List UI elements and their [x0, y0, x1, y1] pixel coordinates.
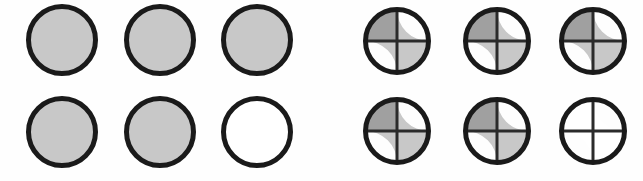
circle-quartered-r0c0-filled [358, 2, 436, 80]
circle-plain-r0c2-filled [216, 0, 298, 81]
figure-canvas [0, 0, 643, 181]
circle-outline [29, 99, 96, 166]
circle-outline [224, 7, 291, 74]
circle-quartered-r0c2-filled [554, 2, 632, 80]
circle-quartered-r1c0-filled [358, 92, 436, 170]
circle-outline [127, 7, 194, 74]
quartered-circles-group [321, 0, 643, 181]
plain-circles-group [0, 0, 321, 181]
circle-plain-r1c0-filled [21, 91, 103, 173]
circle-plain-r0c1-filled [119, 0, 201, 81]
circle-outline [127, 99, 194, 166]
circle-quartered-r1c2-empty [554, 92, 632, 170]
circle-quartered-r1c1-filled [458, 92, 536, 170]
circle-plain-r1c1-filled [119, 91, 201, 173]
circle-outline [29, 7, 96, 74]
circle-outline [224, 99, 291, 166]
circle-quartered-r0c1-filled [458, 2, 536, 80]
circle-plain-r0c0-filled [21, 0, 103, 81]
circle-plain-r1c2-empty [216, 91, 298, 173]
